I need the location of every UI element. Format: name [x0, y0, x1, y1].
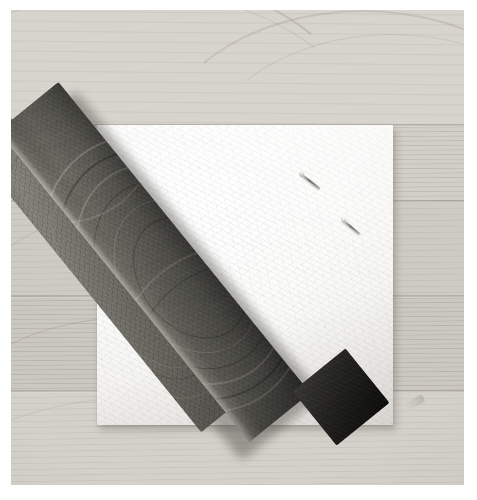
wood-plank-1 — [11, 10, 464, 130]
pad-shading — [97, 125, 393, 425]
image-canvas — [0, 0, 477, 500]
white-foam-pad — [97, 125, 393, 425]
photograph — [11, 10, 464, 485]
